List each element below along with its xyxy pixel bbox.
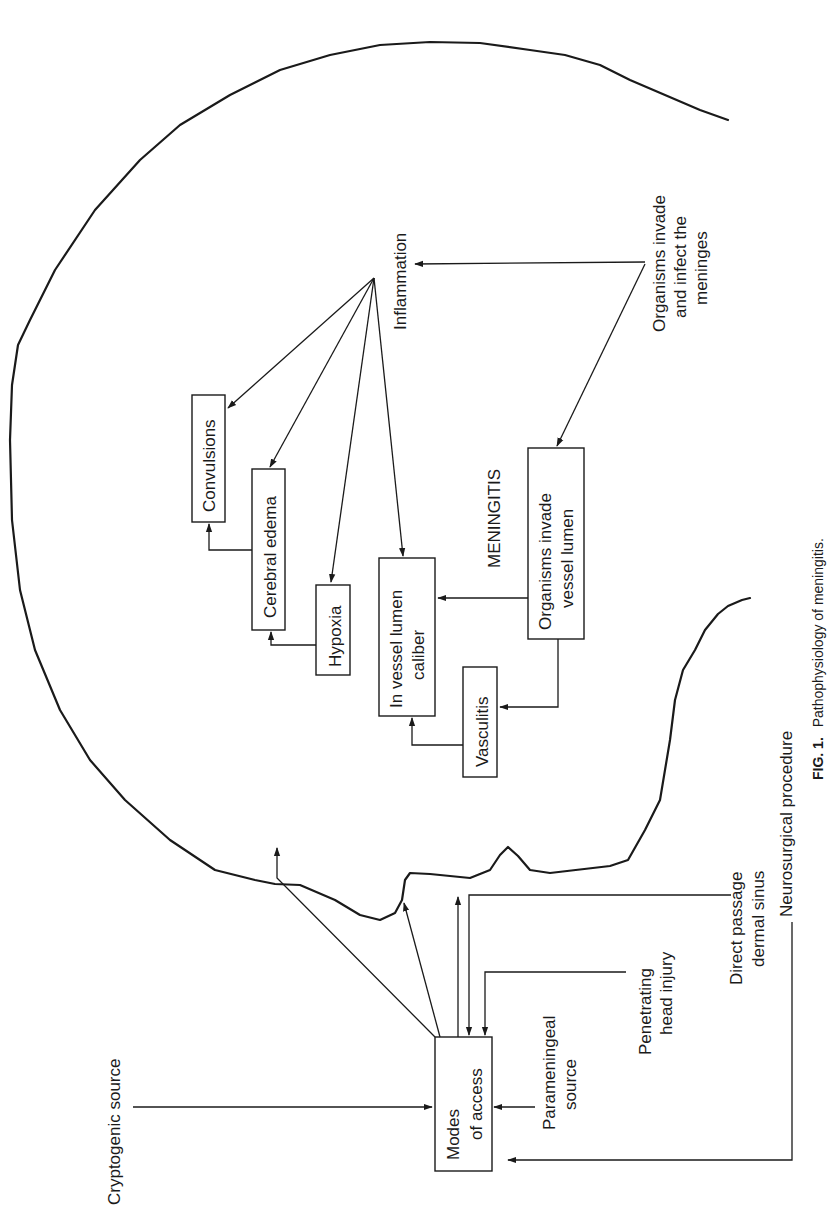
node-cerebral-edema: Cerebral edema bbox=[252, 469, 285, 630]
node-label-line2: of access bbox=[467, 1068, 486, 1140]
svg-text:dermal sinus: dermal sinus bbox=[749, 871, 768, 967]
meningitis-pathophysiology-diagram: Convulsions Cerebral edema Hypoxia In ve… bbox=[0, 0, 827, 1210]
arrow-direct-passage-to-modes bbox=[469, 895, 731, 1035]
figure-caption: FIG. 1. Pathophysiology of meningitis. bbox=[810, 538, 826, 780]
arrow-hypoxia-to-cerebral-edema bbox=[271, 632, 316, 645]
arrow-inflammation-to-cerebral-edema bbox=[270, 278, 374, 467]
arrow-inflammation-to-hypoxia bbox=[331, 278, 374, 582]
node-hypoxia: Hypoxia bbox=[316, 585, 350, 675]
node-label: Hypoxia bbox=[326, 605, 345, 667]
node-modes-of-access: Modes of access bbox=[435, 1037, 492, 1171]
node-label-line1: Organisms invade bbox=[536, 493, 555, 630]
svg-text:Penetrating: Penetrating bbox=[636, 968, 655, 1055]
caption-label: FIG. 1. bbox=[810, 737, 826, 780]
arrow-cerebral-edema-to-convulsions bbox=[209, 524, 252, 550]
arrow-inflammation-to-convulsions bbox=[228, 278, 374, 408]
label-cryptogenic-source: Cryptogenic source bbox=[105, 1059, 124, 1205]
svg-text:head injury: head injury bbox=[657, 951, 676, 1035]
svg-text:and infect the: and infect the bbox=[671, 216, 690, 318]
caption-text: Pathophysiology of meningitis. bbox=[810, 538, 826, 727]
arrow-vasculitis-to-caliber bbox=[412, 718, 463, 745]
node-vasculitis: Vasculitis bbox=[463, 667, 497, 777]
label-direct-passage-dermal-sinus: Direct passage dermal sinus bbox=[727, 871, 768, 985]
svg-text:source: source bbox=[561, 1059, 580, 1110]
node-convulsions: Convulsions bbox=[192, 395, 225, 522]
node-vessel-lumen-caliber: In vessel lumen caliber bbox=[379, 558, 435, 716]
skull-outline bbox=[10, 42, 750, 920]
node-label: Convulsions bbox=[200, 419, 219, 512]
svg-text:Direct passage: Direct passage bbox=[727, 872, 746, 985]
node-organisms-invade-vessel-lumen: Organisms invade vessel lumen bbox=[528, 448, 584, 639]
svg-text:meninges: meninges bbox=[692, 231, 711, 305]
label-inflammation: Inflammation bbox=[391, 233, 410, 330]
svg-text:Parameningeal: Parameningeal bbox=[540, 1016, 559, 1130]
arrow-meninges-to-vessel-invasion bbox=[557, 264, 645, 446]
arrow-vessel-invasion-to-vasculitis bbox=[500, 639, 558, 707]
label-neurosurgical-procedure: Neurosurgical procedure bbox=[777, 731, 796, 917]
node-label: Cerebral edema bbox=[261, 496, 280, 618]
node-label-line1: In vessel lumen bbox=[387, 590, 406, 708]
svg-text:FIG. 1. Pathophysiology: FIG. 1. Pathophysiology of meningitis. bbox=[810, 538, 826, 780]
label-organisms-invade-meninges: Organisms invade and infect the meninges bbox=[650, 195, 711, 332]
node-label-line2: vessel lumen bbox=[558, 509, 577, 608]
node-label: Vasculitis bbox=[473, 696, 492, 767]
svg-text:Organisms invade: Organisms invade bbox=[650, 195, 669, 332]
arrow-modes-to-skull-2 bbox=[404, 903, 440, 1037]
node-label-line2: caliber bbox=[409, 630, 428, 680]
node-label-line1: Modes bbox=[444, 1109, 463, 1160]
meningitis-title: MENINGITIS bbox=[485, 469, 504, 568]
arrow-modes-to-skull-1 bbox=[277, 848, 435, 1037]
label-penetrating-head-injury: Penetrating head injury bbox=[636, 951, 676, 1055]
arrow-meninges-to-inflammation bbox=[415, 262, 645, 264]
label-parameningeal-source: Parameningeal source bbox=[540, 1016, 580, 1130]
